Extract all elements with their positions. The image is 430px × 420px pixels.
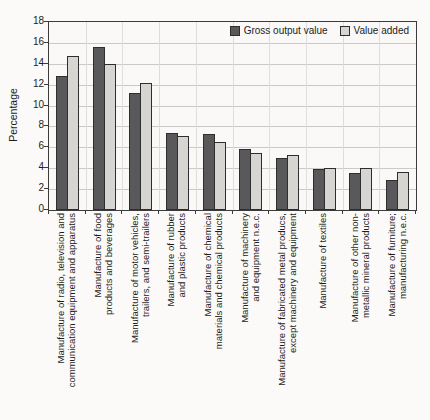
y-tick-10 [44,105,48,106]
legend: Gross output value Value added [230,25,409,36]
bar-value-added-7 [324,168,336,210]
legend-label-gross-output-value: Gross output value [244,25,328,36]
gridline-x-8 [343,22,344,210]
x-tick-7 [305,210,306,214]
gridline-x-9 [379,22,380,210]
legend-item-value-added: Value added [340,25,409,36]
y-tick-16 [44,42,48,43]
bar-value-added-3 [177,136,189,210]
gridline-x-6 [269,22,270,210]
gridline-x-3 [159,22,160,210]
bar-value-added-0 [67,56,79,210]
bar-value-added-4 [214,142,226,210]
y-tick-label-16: 16 [18,36,44,48]
y-tick-4 [44,167,48,168]
x-category-label-line: Manufacture of furniture; [386,213,398,413]
x-category-label-line: Manufacture of motor vehicles, [129,213,141,413]
legend-swatch-gross-output-value [230,26,240,36]
gridline-x-4 [196,22,197,210]
x-tick-8 [342,210,343,214]
y-tick-14 [44,63,48,64]
legend-label-value-added: Value added [354,25,409,36]
x-category-label-4: Manufacture of chemicalmaterials and che… [200,213,226,413]
x-category-label-line: metallic mineral products [360,213,372,413]
x-category-label-line: Manufacture of machinery [239,213,251,413]
x-category-label-7: Manufacture of textiles [310,213,336,413]
x-tick-3 [158,210,159,214]
x-category-label-line: Manufacture of other non- [349,213,361,413]
x-tick-0 [48,210,49,214]
x-category-label-line: communication equipment and apparatus [66,213,78,413]
x-category-label-1: Manufacture of foodproducts and beverage… [90,213,116,413]
bar-value-added-2 [140,83,152,210]
x-category-label-line: manufacturing n.e.c. [397,213,409,413]
y-tick-label-14: 14 [18,57,44,69]
gridline-x-5 [233,22,234,210]
x-category-label-5: Manufacture of machineryand equipment n.… [237,213,263,413]
x-category-label-line: Manufacture of food [92,213,104,413]
gridline-x-7 [306,22,307,210]
bar-value-added-8 [360,168,372,210]
bar-value-added-5 [250,153,262,210]
x-category-label-line: Manufacture of textiles [317,213,329,413]
x-category-label-line: products and beverages [103,213,115,413]
bar-value-added-1 [104,64,116,210]
x-category-label-8: Manufacture of other non-metallic minera… [347,213,373,413]
gridline-x-1 [86,22,87,210]
legend-item-gross-output-value: Gross output value [230,25,328,36]
x-category-label-line: and equipment n.e.c. [250,213,262,413]
y-tick-label-18: 18 [18,15,44,27]
x-tick-10 [415,210,416,214]
plot-area: Gross output value Value added [48,21,417,211]
legend-swatch-value-added [340,26,350,36]
x-category-label-2: Manufacture of motor vehicles,trailers, … [127,213,153,413]
y-tick-6 [44,146,48,147]
x-tick-1 [85,210,86,214]
y-tick-18 [44,21,48,22]
x-tick-9 [378,210,379,214]
x-category-label-line: except machinery and equipment [287,213,299,413]
y-tick-label-6: 6 [18,140,44,152]
x-category-label-line: trailers, and semi-trailers [140,213,152,413]
y-tick-12 [44,84,48,85]
bar-value-added-9 [397,172,409,210]
y-tick-label-2: 2 [18,182,44,194]
x-category-label-line: and plastic products [176,213,188,413]
x-tick-5 [232,210,233,214]
x-category-label-line: Manufacture of fabricated metal producs, [276,213,288,413]
gridline-x-2 [122,22,123,210]
x-tick-2 [121,210,122,214]
y-tick-label-12: 12 [18,78,44,90]
bar-value-added-6 [287,155,299,210]
y-tick-label-10: 10 [18,99,44,111]
x-category-label-3: Manufacture of rubberand plastic product… [163,213,189,413]
y-tick-8 [44,125,48,126]
y-axis-title: Percentage [6,21,20,209]
x-category-label-line: Manufacture of rubber [165,213,177,413]
y-tick-label-4: 4 [18,161,44,173]
x-tick-6 [268,210,269,214]
x-category-label-line: Manufacture of radio, television and [55,213,67,413]
x-category-label-line: Manufacture of chemical [202,213,214,413]
x-category-label-9: Manufacture of furniture;manufacturing n… [384,213,410,413]
x-category-label-0: Manufacture of radio, television andcomm… [53,213,79,413]
y-tick-label-0: 0 [18,203,44,215]
x-category-label-line: materials and chemical products [213,213,225,413]
y-tick-label-8: 8 [18,119,44,131]
x-category-label-6: Manufacture of fabricated metal producs,… [274,213,300,413]
bar-chart: Percentage Gross output value Value adde… [0,0,430,420]
x-tick-4 [195,210,196,214]
y-tick-2 [44,188,48,189]
